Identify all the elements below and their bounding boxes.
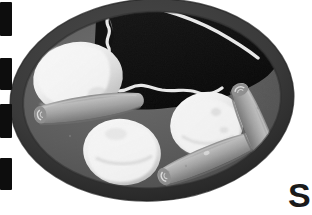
watermark-letter: S xyxy=(288,178,310,212)
edge-mark xyxy=(0,158,12,190)
edge-mark xyxy=(0,104,12,138)
edge-mark xyxy=(0,2,12,36)
edge-mark xyxy=(0,58,12,90)
food-photograph xyxy=(0,0,312,215)
screenshot-root: S xyxy=(0,0,312,215)
